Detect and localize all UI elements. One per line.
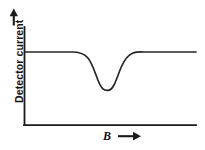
- arrow-right-icon: [118, 132, 141, 141]
- y-axis-label: Detector current: [14, 12, 25, 110]
- figure-container: Detector current B: [0, 0, 205, 150]
- x-axis-label: B: [103, 130, 111, 142]
- detector-current-curve: [25, 52, 196, 90]
- plot-svg: [0, 0, 205, 150]
